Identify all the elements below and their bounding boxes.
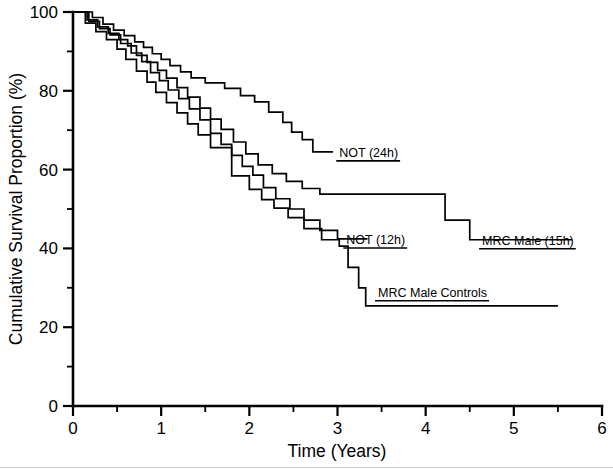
x-axis-ticks: 0123456 (68, 406, 606, 438)
y-tick-label: 100 (30, 3, 58, 22)
series-label-0: NOT (24h) (339, 146, 398, 160)
y-axis-title: Cumulative Survival Proportion (%) (6, 73, 26, 345)
axes-group (73, 12, 602, 406)
y-tick-label: 20 (39, 318, 58, 337)
x-tick-label: 3 (333, 419, 342, 438)
series-label-2: MRC Male (15h) (482, 234, 574, 248)
x-tick-label: 5 (509, 419, 518, 438)
y-tick-label: 60 (39, 161, 58, 180)
km-curve-series-1: MRC Male (15h) (73, 12, 572, 240)
footer-divider (0, 467, 613, 468)
y-axis-ticks: 020406080100 (30, 3, 73, 416)
x-axis-title: Time (Years) (288, 441, 387, 461)
kaplan-meier-chart: 020406080100 0123456 NOT (24h)MRC Male (… (0, 0, 613, 470)
x-tick-label: 6 (597, 419, 606, 438)
series-annotations-group: NOT (24h)NOT (12h)MRC Male (15h)MRC Male… (336, 146, 576, 301)
series-label-1: NOT (12h) (346, 233, 405, 247)
y-tick-label: 0 (49, 397, 58, 416)
x-tick-label: 2 (245, 419, 254, 438)
y-tick-label: 80 (39, 82, 58, 101)
survival-chart-figure: 020406080100 0123456 NOT (24h)MRC Male (… (0, 0, 613, 470)
series-label-3: MRC Male Controls (378, 286, 487, 300)
x-tick-label: 1 (156, 419, 165, 438)
x-tick-label: 4 (421, 419, 430, 438)
x-tick-label: 0 (68, 419, 77, 438)
y-tick-label: 40 (39, 239, 58, 258)
km-curves-group: NOT (24h)MRC Male (15h)NOT (12h)MRC Male… (73, 12, 572, 306)
